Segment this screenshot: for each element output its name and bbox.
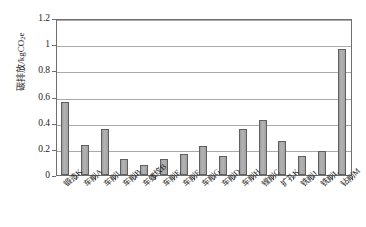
- y-axis-tick-mark: [52, 176, 56, 177]
- y-axis-title-tail: e: [16, 32, 26, 36]
- bar: [81, 145, 89, 175]
- bar: [278, 141, 286, 175]
- y-axis-tick-label: 0.2: [10, 144, 50, 154]
- bar: [338, 49, 346, 175]
- bar-chart-figure: 碳排放/kgCO2e 1.210.80.60.40.20 锻造K车削A车削I车削…: [0, 0, 366, 227]
- bar-series: [57, 20, 351, 175]
- bar: [199, 146, 207, 175]
- bar: [61, 102, 69, 175]
- bar: [101, 129, 109, 175]
- y-axis-tick-label: 0.4: [10, 118, 50, 128]
- y-axis-tick-label: 1.2: [10, 13, 50, 23]
- y-axis-tick-label: 0.6: [10, 92, 50, 102]
- bar: [259, 120, 267, 175]
- y-axis-tick-label: 1: [10, 39, 50, 49]
- bar: [318, 151, 326, 175]
- bar: [239, 129, 247, 175]
- y-axis-tick-label: 0.8: [10, 65, 50, 75]
- y-axis-tick-label: 0: [10, 170, 50, 180]
- plot-area: [56, 19, 352, 176]
- bar: [180, 154, 188, 175]
